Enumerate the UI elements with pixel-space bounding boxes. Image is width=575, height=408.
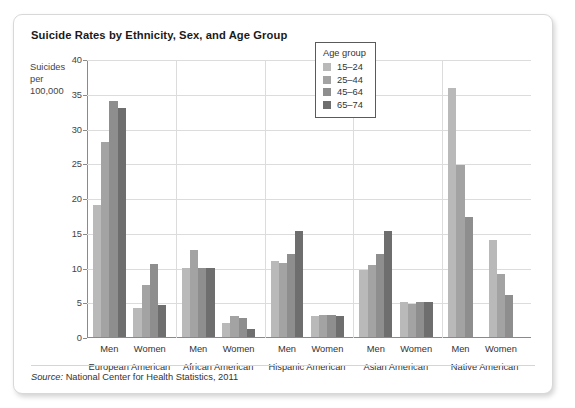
x-tick-label-sex: Women: [223, 344, 255, 354]
bar: [190, 250, 198, 337]
bar: [368, 265, 376, 337]
x-group-label-ethnicity: African American: [183, 362, 253, 372]
x-group-label-ethnicity: Hispanic American: [269, 362, 346, 372]
y-tick-label: 35: [72, 90, 82, 100]
y-tick-label: 0: [77, 333, 82, 343]
bar: [489, 240, 497, 337]
bar: [109, 101, 117, 337]
y-gridline: [87, 95, 531, 96]
bar: [287, 254, 295, 337]
group-separator: [265, 60, 266, 338]
y-tick-mark: [83, 269, 87, 270]
bar: [408, 304, 416, 337]
legend-item: 45–64: [323, 86, 366, 99]
group-separator: [176, 60, 177, 338]
bar: [230, 316, 238, 337]
x-axis-line: [87, 337, 531, 338]
x-tick-label-sex: Women: [400, 344, 432, 354]
x-tick-label-sex: Men: [451, 344, 469, 354]
bar: [359, 270, 367, 337]
bar: [336, 316, 344, 337]
legend-swatch-icon: [323, 63, 331, 71]
bar: [279, 263, 287, 337]
y-tick-mark: [83, 95, 87, 96]
bar: [319, 315, 327, 337]
bar: [376, 254, 384, 337]
legend-item-label: 45–64: [337, 87, 363, 97]
bar: [158, 305, 166, 337]
legend-title: Age group: [323, 48, 366, 58]
group-separator: [442, 60, 443, 338]
legend-item-label: 25–44: [337, 75, 363, 85]
page-title: Suicide Rates by Ethnicity, Sex, and Age…: [31, 29, 287, 41]
source-prefix: Source:: [31, 372, 63, 382]
bar: [118, 108, 126, 337]
y-tick-label: 5: [77, 298, 82, 308]
legend-items: 15–2425–4445–6465–74: [323, 61, 366, 111]
bar: [142, 285, 150, 337]
x-group-label-ethnicity: Asian American: [364, 362, 429, 372]
bar: [424, 302, 432, 337]
y-tick-label: 10: [72, 264, 82, 274]
y-tick-label: 25: [72, 159, 82, 169]
legend-swatch-icon: [323, 76, 331, 84]
bar: [222, 323, 230, 337]
bar: [239, 318, 247, 337]
y-tick-label: 15: [72, 229, 82, 239]
source-text: National Center for Health Statistics, 2…: [66, 372, 238, 382]
x-tick-label-sex: Men: [100, 344, 118, 354]
bar: [384, 231, 392, 337]
legend-item-label: 15–24: [337, 62, 363, 72]
x-group-label-ethnicity: Native American: [451, 362, 519, 372]
bar: [150, 264, 158, 337]
legend: Age group 15–2425–4445–6465–74: [315, 42, 376, 118]
bar: [295, 231, 303, 337]
bar: [327, 315, 335, 337]
bar: [505, 295, 513, 337]
bar: [93, 205, 101, 337]
bar: [311, 316, 319, 337]
y-gridline: [87, 130, 531, 131]
x-tick-label-sex: Women: [485, 344, 517, 354]
bar: [247, 329, 255, 337]
y-tick-mark: [83, 199, 87, 200]
bar: [133, 308, 141, 337]
screenshot-root: Suicide Rates by Ethnicity, Sex, and Age…: [0, 0, 575, 408]
bar: [206, 268, 214, 338]
legend-item: 15–24: [323, 61, 366, 74]
y-tick-label: 20: [72, 194, 82, 204]
y-tick-mark: [83, 164, 87, 165]
x-tick-label-sex: Men: [367, 344, 385, 354]
legend-item-label: 65–74: [337, 100, 363, 110]
legend-swatch-icon: [323, 101, 331, 109]
bar: [101, 142, 109, 337]
legend-item: 65–74: [323, 99, 366, 112]
x-tick-label-sex: Men: [278, 344, 296, 354]
y-tick-mark: [83, 338, 87, 339]
source-caption: Source: National Center for Health Stati…: [31, 372, 238, 382]
legend-swatch-icon: [323, 88, 331, 96]
chart-card: Suicide Rates by Ethnicity, Sex, and Age…: [13, 14, 553, 394]
bar: [456, 165, 464, 337]
y-tick-label: 40: [72, 55, 82, 65]
y-axis-label-line: per: [30, 73, 88, 85]
y-tick-mark: [83, 303, 87, 304]
footer-divider: [31, 365, 535, 366]
x-group-label-ethnicity: European American: [89, 362, 171, 372]
bar: [497, 274, 505, 337]
bar: [400, 302, 408, 337]
bar: [416, 302, 424, 337]
y-tick-mark: [83, 60, 87, 61]
y-tick-label: 30: [72, 125, 82, 135]
legend-item: 25–44: [323, 74, 366, 87]
bar: [465, 217, 473, 337]
bar: [448, 88, 456, 337]
x-tick-label-sex: Women: [134, 344, 166, 354]
y-tick-mark: [83, 234, 87, 235]
bar: [182, 268, 190, 338]
plot-area: 0510152025303540MenWomenEuropean America…: [87, 60, 531, 338]
y-gridline: [87, 60, 531, 61]
x-tick-label-sex: Men: [189, 344, 207, 354]
bar: [198, 268, 206, 338]
x-tick-label-sex: Women: [311, 344, 343, 354]
